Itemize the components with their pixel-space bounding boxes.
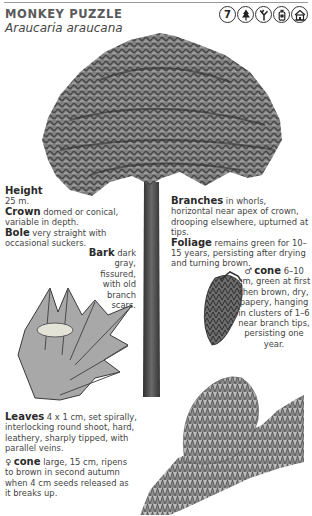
bark-description: Bark dark gray, fissured, with old branc… (84, 248, 136, 310)
male-cone-description: ♂ cone 6–10 cm, green at first then brow… (236, 266, 312, 349)
foliage-label: Foliage (171, 237, 212, 248)
crown-label: Crown (5, 206, 41, 217)
bole-label: Bole (5, 227, 30, 238)
female-cone-illustration (140, 377, 304, 515)
male-cone-text: 6–10 cm, green at first then brown, dry,… (238, 266, 310, 349)
branches-description: Branches in whorls, horizontal near apex… (171, 196, 309, 269)
female-cone-description: ♀ cone large, 15 cm, ripens to brown in … (5, 457, 135, 499)
height-label: Height (5, 185, 43, 196)
leaves-label: Leaves (5, 411, 44, 422)
male-symbol-icon: ♂ (244, 266, 252, 276)
female-symbol-icon: ♀ (5, 457, 11, 467)
bark-label: Bark (89, 247, 115, 258)
trunk (143, 182, 160, 397)
height-description: Height 25 m. Crown domed or conical, var… (5, 186, 135, 248)
male-cone-label: cone (254, 265, 281, 276)
crown (42, 33, 282, 196)
branches-label: Branches (171, 195, 223, 206)
female-cone-label: cone (14, 456, 41, 467)
leaves-description: Leaves 4 x 1 cm, set spirally, interlock… (5, 412, 155, 454)
